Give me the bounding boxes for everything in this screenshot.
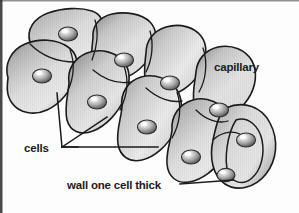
nucleus xyxy=(115,53,134,67)
scan-edge-top xyxy=(0,0,299,2)
nucleus xyxy=(161,76,180,90)
capillary-diagram-figure: capillary cells wall one cell thick xyxy=(0,0,299,213)
label-capillary: capillary xyxy=(214,61,260,73)
nucleus xyxy=(88,95,107,109)
nucleus xyxy=(182,150,201,164)
label-wall-one-cell-thick: wall one cell thick xyxy=(66,179,162,191)
nucleus xyxy=(237,133,256,147)
nucleus xyxy=(59,27,78,41)
capillary-illustration: capillary cells wall one cell thick xyxy=(0,0,299,213)
label-cells: cells xyxy=(24,142,49,154)
nucleus xyxy=(210,103,229,117)
nucleus xyxy=(33,69,52,83)
scan-edge-left xyxy=(0,0,3,213)
nucleus xyxy=(138,120,157,134)
